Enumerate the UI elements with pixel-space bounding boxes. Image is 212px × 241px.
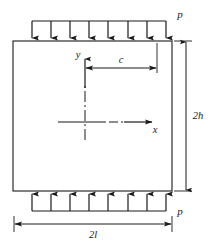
x-axis-label: x (152, 124, 158, 135)
top-load-group (32, 21, 166, 38)
offset-dimension-label: c (119, 54, 124, 65)
top-load-label: p (176, 8, 183, 20)
height-dimension-group (174, 41, 192, 191)
y-axis-label: y (75, 49, 81, 60)
bottom-load-arrows (32, 194, 166, 211)
figure-container: p p y x (0, 0, 212, 241)
plate-load-diagram: p p y x (0, 0, 212, 241)
height-dimension-label: 2h (193, 110, 204, 121)
top-load-arrows (32, 21, 166, 38)
width-dimension-label: 2l (89, 229, 97, 240)
bottom-load-label: p (176, 205, 183, 217)
bottom-load-group (32, 194, 166, 211)
plate-outline (13, 41, 172, 191)
